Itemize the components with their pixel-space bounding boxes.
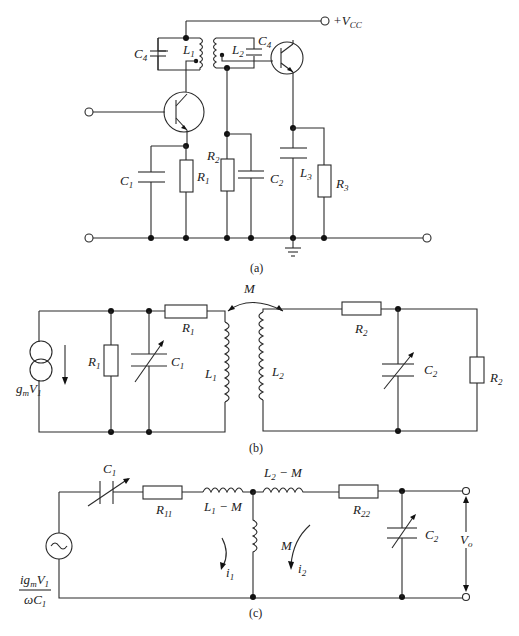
svg-text:C2: C2 <box>425 527 439 544</box>
vo-bottom-terminal <box>463 594 470 601</box>
input-terminal <box>85 108 93 116</box>
svg-text:C1: C1 <box>103 461 116 478</box>
svg-text:i2: i2 <box>298 561 307 578</box>
transistor-q2 <box>271 42 303 74</box>
svg-text:L2: L2 <box>231 42 244 59</box>
caption-a: (a) <box>250 261 263 275</box>
svg-text:C2: C2 <box>424 362 438 379</box>
circuit-figure: +VCC C4 L1 L2 C4 <box>0 0 519 636</box>
svg-text:C1: C1 <box>120 173 133 190</box>
svg-text:R1: R1 <box>87 354 100 371</box>
ground-left-terminal <box>85 234 93 242</box>
svg-text:R2: R2 <box>354 321 368 338</box>
ground-symbol <box>285 238 301 256</box>
svg-text:i1: i1 <box>226 565 234 582</box>
vo-top-terminal <box>463 488 470 495</box>
svg-text:C2: C2 <box>270 171 284 188</box>
svg-text:C4: C4 <box>258 33 272 50</box>
svg-text:gmV1: gmV1 <box>16 381 41 398</box>
current-source <box>30 341 52 363</box>
svg-text:M: M <box>243 281 256 296</box>
svg-text:ωC1: ωC1 <box>24 592 46 609</box>
svg-text:R2: R2 <box>206 148 220 165</box>
inductor-l2-minus-m <box>253 488 339 492</box>
svg-text:igmV1: igmV1 <box>20 572 49 589</box>
inductor-l1-minus-m <box>203 488 253 492</box>
svg-text:L1: L1 <box>182 42 195 59</box>
inductor-l2 <box>259 312 263 400</box>
svg-text:R11: R11 <box>155 502 172 519</box>
svg-text:L1 − M: L1 − M <box>203 499 243 516</box>
svg-text:R22: R22 <box>352 502 370 519</box>
inductor-l1 <box>225 322 229 402</box>
caption-c: (c) <box>249 606 262 620</box>
panel-a: +VCC C4 L1 L2 C4 <box>85 13 431 275</box>
inductor-m <box>253 492 257 597</box>
svg-text:L2: L2 <box>271 364 284 381</box>
inductor-l1-coil <box>200 38 203 70</box>
svg-text:L2 − M: L2 − M <box>263 465 303 482</box>
svg-text:R3: R3 <box>335 176 349 193</box>
vcc-terminal <box>321 17 329 25</box>
caption-b: (b) <box>249 441 263 455</box>
svg-text:M: M <box>280 538 293 553</box>
svg-text:L1: L1 <box>204 366 217 383</box>
svg-text:R1: R1 <box>181 320 194 337</box>
panel-b: M R1 gmV1 R1 C1 L1 L2 <box>16 281 503 455</box>
svg-text:L3: L3 <box>299 165 312 182</box>
svg-text:C4: C4 <box>134 46 148 63</box>
ground-right-terminal <box>423 234 431 242</box>
svg-text:R1: R1 <box>196 169 209 186</box>
svg-text:R2: R2 <box>489 370 503 387</box>
panel-c: C1 R11 L1 − M L2 − M R22 M igmV1 ωC1 <box>19 461 474 620</box>
svg-text:C1: C1 <box>171 354 184 371</box>
inductor-l2-coil <box>214 38 217 68</box>
svg-text:+VCC: +VCC <box>333 13 363 30</box>
